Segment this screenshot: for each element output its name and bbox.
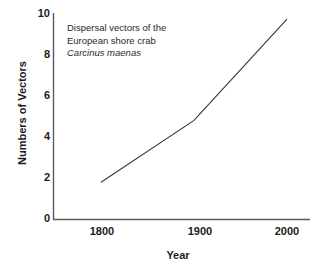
y-tick-label-2: 2 [30, 172, 50, 183]
annotation-line-2: European shore crab [67, 35, 166, 48]
x-tick-label-1800: 1800 [80, 226, 124, 237]
annotation-line-1: Dispersal vectors of the [67, 22, 166, 35]
y-tick-label-6: 6 [30, 90, 50, 101]
y-tick-label-10: 10 [30, 8, 50, 19]
y-axis-title: Numbers of Vectors [16, 53, 28, 173]
y-tick-label-4: 4 [30, 131, 50, 142]
y-tick-label-0: 0 [30, 213, 50, 224]
chart-annotation: Dispersal vectors of the European shore … [67, 22, 166, 60]
x-tick-label-1900: 1900 [178, 226, 222, 237]
x-tick-label-2000: 2000 [265, 226, 309, 237]
annotation-species-name: Carcinus maenas [67, 47, 166, 60]
line-chart: 10 8 6 4 2 0 1800 1900 2000 Year Numbers… [0, 0, 315, 275]
x-axis-title: Year [136, 249, 220, 261]
y-tick-label-8: 8 [30, 49, 50, 60]
